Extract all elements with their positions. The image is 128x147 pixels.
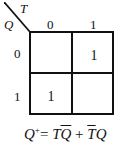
col-header-0: 0 [47,18,54,31]
next-state-equation: Q+= TQ + TQ [24,125,106,143]
eq-term1-qbar: Q [60,126,71,142]
col-variable-label: T [20,2,27,15]
row-header-0: 0 [14,47,21,60]
row-variable-label: Q [4,18,13,31]
eq-lhs: Q [24,126,35,142]
eq-term2-q: Q [96,126,107,142]
cell-0-1: 1 [74,48,114,64]
cell-1-0: 1 [31,89,71,105]
eq-term2-tbar: T [87,126,95,142]
eq-sign: = [40,126,52,142]
grid-divider-horizontal [29,72,114,74]
col-header-1: 1 [90,18,97,31]
eq-plus: + [71,126,87,142]
row-header-1: 1 [14,90,21,103]
